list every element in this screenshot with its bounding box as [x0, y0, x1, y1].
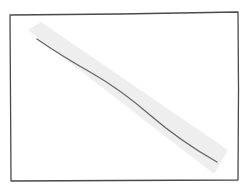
sketch-svg	[0, 0, 249, 190]
sketch-canvas	[0, 0, 249, 190]
